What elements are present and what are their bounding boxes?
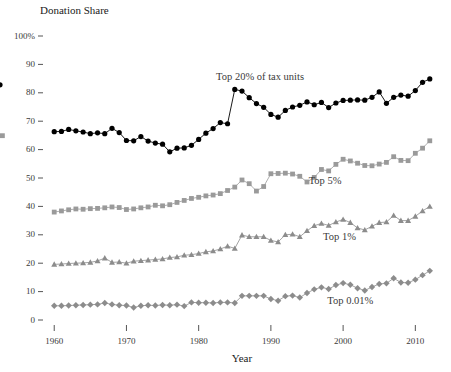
chart-title: Donation Share	[40, 4, 109, 16]
data-point-triangle	[116, 259, 122, 264]
data-point-square	[225, 188, 230, 193]
data-point-diamond	[318, 284, 324, 290]
data-point-diamond	[325, 286, 331, 292]
data-point-square	[81, 207, 86, 212]
data-point-diamond	[369, 284, 375, 290]
data-point-circle	[391, 95, 396, 100]
data-point-square	[175, 200, 180, 205]
data-point-circle	[319, 100, 324, 105]
data-point-diamond	[275, 297, 281, 303]
data-point-square	[110, 205, 115, 210]
y-tick-label: 30	[26, 229, 36, 239]
data-point-circle	[283, 108, 288, 113]
y-axis: 0102030405060708090100%	[14, 31, 43, 325]
data-point-square	[362, 163, 367, 168]
data-point-triangle	[102, 255, 108, 260]
data-point-square	[240, 178, 245, 183]
data-point-square	[326, 169, 331, 174]
data-point-diamond	[297, 294, 303, 300]
data-point-circle	[109, 126, 114, 131]
data-point-square	[203, 193, 208, 198]
x-axis-title: Year	[232, 352, 253, 364]
data-point-square	[59, 209, 64, 214]
data-point-square	[218, 191, 223, 196]
data-point-circle	[420, 80, 425, 85]
data-point-square	[333, 162, 338, 167]
data-point-diamond	[58, 303, 64, 309]
data-point-circle	[377, 89, 382, 94]
data-point-square	[66, 207, 71, 212]
data-point-square	[341, 157, 346, 162]
data-point-diamond	[203, 299, 209, 305]
data-point-circle	[333, 100, 338, 105]
data-point-triangle	[290, 231, 296, 236]
data-point-square	[377, 162, 382, 167]
data-point-square	[268, 171, 273, 176]
data-point-diamond	[398, 279, 404, 285]
data-point-diamond	[217, 299, 223, 305]
data-point-circle	[0, 82, 3, 87]
series-2	[0, 133, 432, 214]
data-point-square	[160, 203, 165, 208]
data-point-diamond	[116, 302, 122, 308]
data-point-square	[384, 160, 389, 165]
x-tick-label: 2010	[406, 336, 425, 346]
data-point-triangle	[420, 208, 426, 213]
data-point-circle	[203, 131, 208, 136]
data-point-triangle	[412, 213, 418, 218]
data-point-diamond	[383, 280, 389, 286]
data-point-square	[182, 198, 187, 203]
data-point-square	[146, 205, 151, 210]
data-point-circle	[427, 76, 432, 81]
data-point-square	[261, 184, 266, 189]
data-point-diamond	[102, 300, 108, 306]
y-tick-label: 80	[26, 87, 36, 97]
data-point-circle	[174, 146, 179, 151]
data-point-diamond	[376, 281, 382, 287]
data-point-diamond	[390, 275, 396, 281]
data-point-square	[52, 210, 57, 215]
data-point-circle	[66, 127, 71, 132]
data-point-square	[283, 171, 288, 176]
data-point-triangle	[225, 243, 231, 248]
data-point-diamond	[167, 302, 173, 308]
data-point-diamond	[405, 280, 411, 286]
data-point-circle	[312, 102, 317, 107]
data-point-square	[131, 207, 136, 212]
series-3	[51, 203, 433, 266]
data-point-square	[167, 202, 172, 207]
data-point-diamond	[73, 302, 79, 308]
x-axis: 196019701980199020002010	[45, 325, 425, 346]
data-point-circle	[124, 138, 129, 143]
y-tick-label: 10	[26, 286, 36, 296]
data-point-circle	[406, 94, 411, 99]
data-point-square	[370, 163, 375, 168]
chart-canvas: Donation Share0102030405060708090100%196…	[0, 0, 451, 372]
data-point-triangle	[268, 237, 274, 242]
data-point-diamond	[195, 299, 201, 305]
data-point-circle	[167, 149, 172, 154]
data-point-circle	[362, 98, 367, 103]
data-point-circle	[182, 145, 187, 150]
data-point-diamond	[123, 302, 129, 308]
data-point-triangle	[95, 258, 101, 263]
data-point-triangle	[355, 225, 361, 230]
data-point-triangle	[217, 246, 223, 251]
series-line	[54, 271, 430, 308]
data-point-square	[420, 146, 425, 151]
data-point-square	[102, 205, 107, 210]
data-point-circle	[413, 88, 418, 93]
data-point-diamond	[65, 302, 71, 308]
data-point-circle	[261, 105, 266, 110]
data-point-diamond	[347, 282, 353, 288]
data-point-circle	[196, 137, 201, 142]
data-point-diamond	[87, 301, 93, 307]
y-tick-label: 50	[26, 173, 36, 183]
data-point-square	[398, 158, 403, 163]
data-point-circle	[59, 129, 64, 134]
data-point-circle	[95, 130, 100, 135]
y-tick-label: 40	[26, 201, 36, 211]
data-point-square	[290, 172, 295, 177]
data-point-circle	[153, 140, 158, 145]
data-point-diamond	[340, 280, 346, 286]
